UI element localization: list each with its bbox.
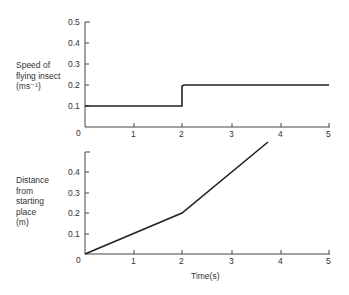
top-ytick-0.2: 0.2 bbox=[68, 80, 80, 91]
distance-line bbox=[85, 142, 268, 254]
top-ytick-0.1: 0.1 bbox=[68, 101, 80, 112]
top-ytick-0.5: 0.5 bbox=[68, 17, 80, 28]
top-ytick-0.4: 0.4 bbox=[68, 38, 80, 49]
top-chart bbox=[85, 22, 330, 127]
top-ytick-0.3: 0.3 bbox=[68, 59, 80, 70]
bottom-origin: 0 bbox=[76, 255, 81, 266]
top-y-label: Speed of flying insect (ms⁻¹) bbox=[16, 60, 60, 92]
bottom-chart bbox=[85, 142, 330, 254]
top-xtick-4: 4 bbox=[278, 129, 283, 140]
top-xtick-1: 1 bbox=[131, 129, 136, 140]
top-origin: 0 bbox=[76, 128, 81, 139]
bottom-ytick-0.4: 0.4 bbox=[68, 167, 80, 178]
top-xtick-5: 5 bbox=[326, 129, 331, 140]
top-xtick-3: 3 bbox=[229, 129, 234, 140]
bottom-x-label: Time(s) bbox=[191, 271, 219, 282]
bottom-xtick-4: 4 bbox=[278, 256, 283, 267]
bottom-xtick-1: 1 bbox=[131, 256, 136, 267]
bottom-ytick-0.3: 0.3 bbox=[68, 188, 80, 199]
bottom-ytick-0.2: 0.2 bbox=[68, 208, 80, 219]
bottom-ytick-0.1: 0.1 bbox=[68, 229, 80, 240]
charts-canvas bbox=[0, 0, 349, 295]
speed-line bbox=[85, 85, 329, 106]
bottom-xtick-5: 5 bbox=[326, 256, 331, 267]
bottom-y-label: Distance from starting place (m) bbox=[16, 175, 49, 228]
top-xtick-2: 2 bbox=[179, 129, 184, 140]
bottom-xtick-3: 3 bbox=[229, 256, 234, 267]
bottom-xtick-2: 2 bbox=[179, 256, 184, 267]
